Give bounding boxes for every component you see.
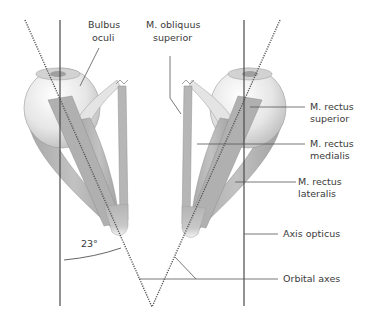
label-rectus-medialis-1: M. rectus xyxy=(310,138,354,149)
angle-label: 23° xyxy=(81,238,98,249)
left-eye-group xyxy=(24,68,128,235)
leader-obliquus-superior xyxy=(170,56,181,114)
left-orbital-axis xyxy=(25,20,152,307)
label-orbital-axes: Orbital axes xyxy=(283,273,340,284)
label-rectus-superior-2: superior xyxy=(310,113,349,124)
left-obliquus-superior xyxy=(118,86,128,222)
orbital-axes-diagram: 23° Bulbus oculi M. obliquus superior M.… xyxy=(0,0,370,330)
label-obliquus-superior-1: M. obliquus xyxy=(146,19,200,30)
right-eye-group xyxy=(182,68,286,237)
right-obliquus-superior xyxy=(182,86,192,224)
leader-orbital-axes-diag xyxy=(175,257,196,279)
label-bulbus-oculi-1: Bulbus xyxy=(88,19,120,30)
angle-arc xyxy=(64,248,121,260)
label-obliquus-superior-2: superior xyxy=(153,32,192,43)
label-axis-opticus: Axis opticus xyxy=(283,228,340,239)
label-rectus-superior-1: M. rectus xyxy=(310,101,354,112)
label-rectus-lateralis-1: M. rectus xyxy=(298,176,342,187)
label-rectus-lateralis-2: lateralis xyxy=(298,188,336,199)
label-bulbus-oculi-2: oculi xyxy=(92,32,114,43)
label-rectus-medialis-2: medialis xyxy=(310,150,350,161)
